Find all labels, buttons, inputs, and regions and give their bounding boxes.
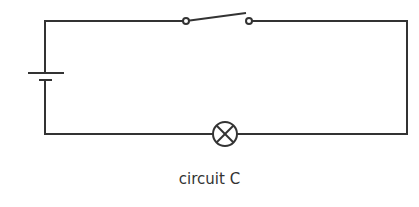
lamp-icon [213,122,237,146]
wire-top-right [237,21,407,134]
wire-top-left [45,21,183,73]
diagram-caption: circuit C [0,170,419,188]
battery-icon [28,73,64,80]
wire-bottom-left [45,80,213,134]
switch-open-icon [183,13,252,24]
